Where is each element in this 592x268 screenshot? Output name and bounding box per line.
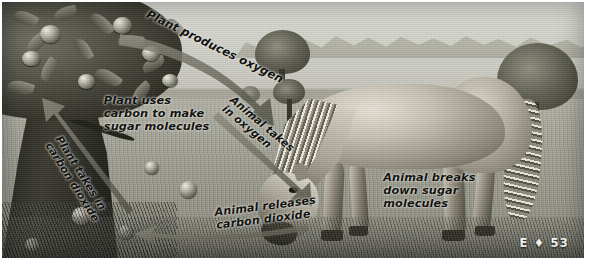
label-plant-uses-carbon: Plant uses carbon to make sugar molecule… — [104, 95, 210, 133]
cycle-diagram-figure: Plant produces oxygen Plant uses carbon … — [2, 2, 584, 258]
page-marker: E ♦ 53 — [519, 236, 568, 250]
label-animal-breaks-down-sugar: Animal breaks down sugar molecules — [383, 172, 475, 210]
